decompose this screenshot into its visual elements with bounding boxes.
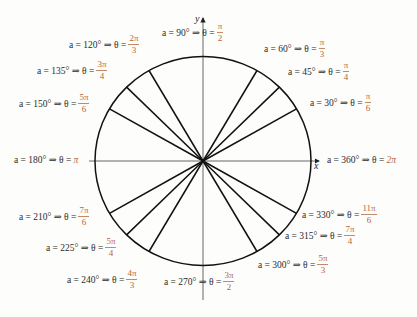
fraction-denominator: 4 — [109, 248, 114, 258]
label-equation: a = 270° ⇒ θ = — [164, 276, 221, 287]
fraction-denominator: 2 — [227, 282, 232, 292]
radian-fraction: 3π2 — [223, 271, 234, 292]
angle-label-270: a = 270° ⇒ θ =3π2 — [164, 271, 234, 292]
angle-label-120: a = 120° ⇒ θ =2π3 — [69, 34, 139, 55]
fraction-denominator: 4 — [348, 236, 353, 246]
label-equation: a = 120° ⇒ θ = — [69, 39, 126, 50]
fraction-denominator: 3 — [320, 49, 325, 59]
angle-label-360: a = 360° ⇒ θ =2π — [327, 154, 396, 165]
angle-label-300: a = 300° ⇒ θ =5π3 — [258, 254, 328, 275]
radian-fraction: 7π4 — [344, 225, 355, 246]
fraction-numerator: π — [365, 92, 372, 103]
fraction-numerator: 5π — [105, 237, 116, 248]
fraction-denominator: 3 — [132, 45, 137, 55]
fraction-numerator: 3π — [223, 271, 234, 282]
angle-label-315: a = 315° ⇒ θ =7π4 — [285, 225, 355, 246]
angle-label-240: a = 240° ⇒ θ =4π3 — [67, 269, 137, 290]
fraction-numerator: π — [217, 22, 224, 33]
label-equation: a = 135° ⇒ θ = — [37, 65, 94, 76]
fraction-numerator: 7π — [78, 206, 89, 217]
fraction-denominator: 6 — [367, 215, 372, 225]
fraction-denominator: 4 — [100, 71, 105, 81]
label-equation: a = 300° ⇒ θ = — [258, 259, 315, 270]
fraction-numerator: 7π — [344, 225, 355, 236]
angle-label-180: a = 180° ⇒ θ =π — [14, 154, 78, 165]
unit-circle-diagram: y x a = 90° ⇒ θ =π2a = 60° ⇒ θ =π3a = 45… — [0, 0, 417, 317]
radian-value: 2π — [386, 155, 396, 165]
x-axis-label: x — [314, 160, 318, 171]
fraction-denominator: 3 — [130, 280, 135, 290]
label-equation: a = 240° ⇒ θ = — [67, 274, 124, 285]
label-equation: a = 330° ⇒ θ = — [302, 209, 359, 220]
angle-label-45: a = 45° ⇒ θ =π4 — [288, 61, 349, 82]
radian-fraction: π2 — [217, 22, 224, 43]
radian-fraction: 2π3 — [128, 34, 139, 55]
radian-fraction: 5π6 — [78, 93, 89, 114]
radian-fraction: 4π3 — [126, 269, 137, 290]
label-equation: a = 315° ⇒ θ = — [285, 230, 342, 241]
radian-fraction: 3π4 — [96, 60, 107, 81]
label-equation: a = 180° ⇒ θ = — [14, 154, 71, 165]
label-equation: a = 210° ⇒ θ = — [19, 211, 76, 222]
fraction-numerator: 11π — [361, 204, 376, 215]
angle-label-330: a = 330° ⇒ θ =11π6 — [302, 204, 377, 225]
fraction-denominator: 2 — [218, 33, 223, 43]
fraction-numerator: 3π — [96, 60, 107, 71]
label-equation: a = 60° ⇒ θ = — [264, 43, 317, 54]
label-equation: a = 150° ⇒ θ = — [19, 98, 76, 109]
label-equation: a = 360° ⇒ θ = — [327, 154, 384, 165]
radian-fraction: π3 — [319, 38, 326, 59]
fraction-denominator: 3 — [321, 265, 326, 275]
angle-label-135: a = 135° ⇒ θ =3π4 — [37, 60, 107, 81]
fraction-numerator: 5π — [78, 93, 89, 104]
radian-value: π — [73, 155, 78, 165]
angle-label-210: a = 210° ⇒ θ =7π6 — [19, 206, 89, 227]
angle-label-60: a = 60° ⇒ θ =π3 — [264, 38, 325, 59]
fraction-denominator: 6 — [82, 217, 87, 227]
label-equation: a = 225° ⇒ θ = — [46, 242, 103, 253]
fraction-denominator: 4 — [344, 72, 349, 82]
angle-label-225: a = 225° ⇒ θ =5π4 — [46, 237, 116, 258]
radian-fraction: π4 — [343, 61, 350, 82]
fraction-numerator: 4π — [126, 269, 137, 280]
label-equation: a = 90° ⇒ θ = — [162, 27, 215, 38]
fraction-numerator: 5π — [317, 254, 328, 265]
label-equation: a = 45° ⇒ θ = — [288, 66, 341, 77]
radian-fraction: π6 — [365, 92, 372, 113]
fraction-denominator: 6 — [366, 103, 371, 113]
fraction-numerator: π — [343, 61, 350, 72]
radian-fraction: 11π6 — [361, 204, 376, 225]
angle-label-150: a = 150° ⇒ θ =5π6 — [19, 93, 89, 114]
fraction-denominator: 6 — [82, 104, 87, 114]
angle-label-90: a = 90° ⇒ θ =π2 — [162, 22, 223, 43]
fraction-numerator: 2π — [128, 34, 139, 45]
radian-fraction: 5π3 — [317, 254, 328, 275]
fraction-numerator: π — [319, 38, 326, 49]
radian-fraction: 7π6 — [78, 206, 89, 227]
radian-fraction: 5π4 — [105, 237, 116, 258]
angle-label-30: a = 30° ⇒ θ =π6 — [310, 92, 371, 113]
label-equation: a = 30° ⇒ θ = — [310, 97, 363, 108]
